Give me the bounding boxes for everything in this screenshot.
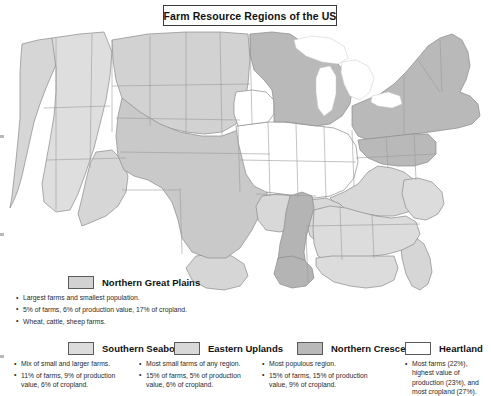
legend-bullet: Most populous region. (262, 359, 382, 368)
legend-bullet: Mix of small and larger farms. (14, 359, 134, 368)
page-title: Farm Resource Regions of the US (164, 10, 337, 22)
legend-header: Heartland (405, 342, 491, 355)
edge-artifact (0, 233, 4, 236)
legend-swatch-northern-crescent (297, 342, 323, 355)
legend-swatch-heartland (405, 342, 431, 355)
legend-bullets: Mix of small and larger farms. 11% of fa… (14, 359, 134, 390)
legend-swatch-southern-seaboard (68, 342, 94, 355)
legend-bullet: Most small farms of any region. (139, 359, 257, 368)
legend-bullet: Wheat, cattle, sheep farms. (16, 317, 224, 326)
legend-bullets: Most populous region. 15% of farms, 15% … (262, 359, 382, 390)
region-southern-seaboard-carolina (402, 178, 444, 220)
legend-bullet: 11% of farms, 9% of production value, 6%… (14, 371, 134, 390)
region-northern-crescent-midatlantic (358, 134, 436, 166)
legend-label-heartland: Heartland (439, 343, 483, 354)
legend-header: Northern Great Plains (68, 276, 224, 289)
edge-artifact (0, 355, 4, 358)
legend-header: Southern Seaboard (68, 342, 134, 355)
map-container (0, 0, 491, 300)
legend-swatch-eastern-uplands (174, 342, 200, 355)
legend-bullet: Largest farms and smallest population. (16, 293, 224, 302)
map-title-box: Farm Resource Regions of the US (163, 5, 337, 26)
edge-artifact (0, 135, 4, 138)
legend-header: Eastern Uplands (174, 342, 257, 355)
us-farm-resource-regions-map (0, 0, 491, 300)
legend-item-heartland[interactable]: Heartland Most farms (22%), highest valu… (387, 342, 491, 396)
legend-label-northern-great-plains: Northern Great Plains (102, 277, 200, 288)
legend-bullet: 15% of farms, 15% of production value, 9… (262, 371, 382, 390)
legend-item-southern-seaboard[interactable]: Southern Seaboard Mix of small and large… (14, 342, 134, 392)
legend-header: Northern Crescent (297, 342, 382, 355)
region-heartland-north (234, 90, 274, 126)
legend-item-northern-crescent[interactable]: Northern Crescent Most populous region. … (262, 342, 382, 392)
map-legend: Northern Great Plains Largest farms and … (0, 272, 491, 396)
legend-swatch-northern-great-plains (68, 276, 94, 289)
legend-item-northern-great-plains[interactable]: Northern Great Plains Largest farms and … (14, 276, 224, 328)
legend-bullet: 5% of farms, 6% of production value, 17%… (16, 305, 224, 314)
legend-bullets: Most farms (22%), highest value of produ… (405, 359, 491, 396)
legend-bullets: Most small farms of any region. 15% of f… (139, 359, 257, 390)
legend-item-eastern-uplands[interactable]: Eastern Uplands Most small farms of any … (139, 342, 257, 392)
legend-bullets: Largest farms and smallest population. 5… (16, 293, 224, 326)
legend-bullet: 15% of farms, 5% of production value, 6%… (139, 371, 257, 390)
legend-bullet: Most farms (22%), highest value of produ… (405, 359, 491, 396)
